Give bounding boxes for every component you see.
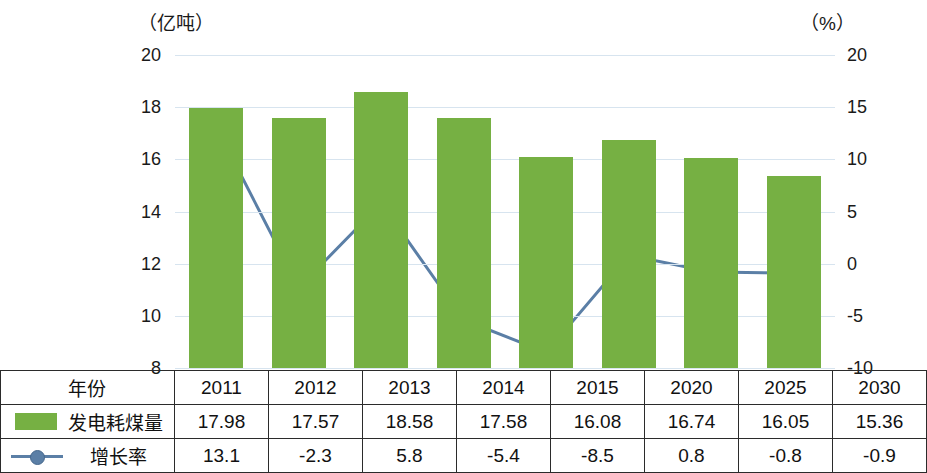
- gridline: [175, 107, 835, 108]
- cell-year-0: 2011: [174, 371, 268, 405]
- left-axis-tick: 10: [117, 307, 161, 325]
- cell-coal-0: 17.98: [174, 405, 268, 439]
- cell-year-4: 2015: [550, 371, 644, 405]
- bar-2012: [272, 118, 326, 368]
- cell-growth-3: -5.4: [456, 439, 550, 473]
- legend-swatch-bar-icon: [15, 413, 57, 430]
- cell-coal-5: 16.74: [644, 405, 738, 439]
- cell-growth-0: 13.1: [174, 439, 268, 473]
- cell-year-2: 2013: [362, 371, 456, 405]
- plot-area: 8101214161820-10-505101520: [175, 55, 835, 368]
- right-axis-tick: 5: [847, 203, 891, 221]
- cell-coal-6: 16.05: [738, 405, 832, 439]
- table-row-year-label: 年份: [1, 371, 175, 405]
- cell-year-3: 2014: [456, 371, 550, 405]
- table-row-growth-label: 增长率: [1, 439, 175, 473]
- left-axis-unit-label: （亿吨）: [138, 8, 214, 35]
- table-row-year: 年份 2011 2012 2013 2014 2015 2020 2025 20…: [1, 371, 927, 405]
- legend-line-marker-icon: [11, 447, 63, 464]
- cell-year-5: 2020: [644, 371, 738, 405]
- cell-year-7: 2030: [832, 371, 926, 405]
- cell-coal-7: 15.36: [832, 405, 926, 439]
- right-axis-tick: 15: [847, 98, 891, 116]
- gridline: [175, 55, 835, 56]
- left-axis-tick: 12: [117, 255, 161, 273]
- coal-label-text: 发电耗煤量: [57, 408, 174, 435]
- right-axis-tick: 10: [847, 150, 891, 168]
- right-axis-tick: -5: [847, 307, 891, 325]
- left-axis-tick: 16: [117, 150, 161, 168]
- cell-coal-4: 16.08: [550, 405, 644, 439]
- cell-coal-2: 18.58: [362, 405, 456, 439]
- bar-2025: [684, 158, 738, 368]
- right-axis-tick: 20: [847, 46, 891, 64]
- cell-year-1: 2012: [268, 371, 362, 405]
- bar-2030: [767, 176, 821, 368]
- cell-growth-4: -8.5: [550, 439, 644, 473]
- bar-2015: [519, 157, 573, 368]
- left-axis-tick: 18: [117, 98, 161, 116]
- table-row-coal-label: 发电耗煤量: [1, 405, 175, 439]
- bar-2014: [437, 118, 491, 368]
- table-row-coal: 发电耗煤量 17.98 17.57 18.58 17.58 16.08 16.7…: [1, 405, 927, 439]
- right-axis-tick: 0: [847, 255, 891, 273]
- cell-growth-1: -2.3: [268, 439, 362, 473]
- cell-growth-5: 0.8: [644, 439, 738, 473]
- table-row-growth: 增长率 13.1 -2.3 5.8 -5.4 -8.5 0.8 -0.8 -0.…: [1, 439, 927, 473]
- cell-year-6: 2025: [738, 371, 832, 405]
- bar-2020: [602, 140, 656, 368]
- bar-2011: [189, 108, 243, 368]
- bar-2013: [354, 92, 408, 368]
- cell-coal-3: 17.58: [456, 405, 550, 439]
- right-axis-unit-label: （%）: [800, 8, 855, 35]
- growth-label-text: 增长率: [63, 442, 174, 469]
- cell-growth-7: -0.9: [832, 439, 926, 473]
- year-label-text: 年份: [1, 374, 174, 401]
- cell-coal-1: 17.57: [268, 405, 362, 439]
- cell-growth-2: 5.8: [362, 439, 456, 473]
- gridline: [175, 368, 835, 369]
- left-axis-tick: 14: [117, 203, 161, 221]
- cell-growth-6: -0.8: [738, 439, 832, 473]
- data-table: 年份 2011 2012 2013 2014 2015 2020 2025 20…: [0, 370, 927, 473]
- left-axis-tick: 20: [117, 46, 161, 64]
